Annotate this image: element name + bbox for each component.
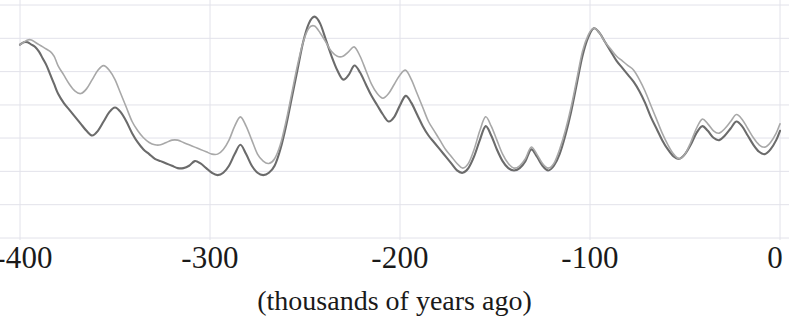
x-tick-label: -300 bbox=[181, 238, 239, 278]
x-tick-label: -200 bbox=[371, 238, 429, 278]
x-axis-tick-labels: -400-300-200-1000 bbox=[0, 238, 789, 280]
x-tick-label: -100 bbox=[561, 238, 619, 278]
x-tick-label: 0 bbox=[767, 238, 783, 278]
paleoclimate-line-chart: -400-300-200-1000 (thousands of years ag… bbox=[0, 0, 789, 325]
vertical-gridlines bbox=[20, 0, 780, 240]
x-axis-title: (thousands of years ago) bbox=[0, 281, 789, 321]
x-tick-label: -400 bbox=[0, 238, 53, 278]
horizontal-gridlines bbox=[0, 5, 789, 238]
chart-canvas bbox=[0, 0, 789, 240]
plot-area bbox=[0, 0, 789, 240]
